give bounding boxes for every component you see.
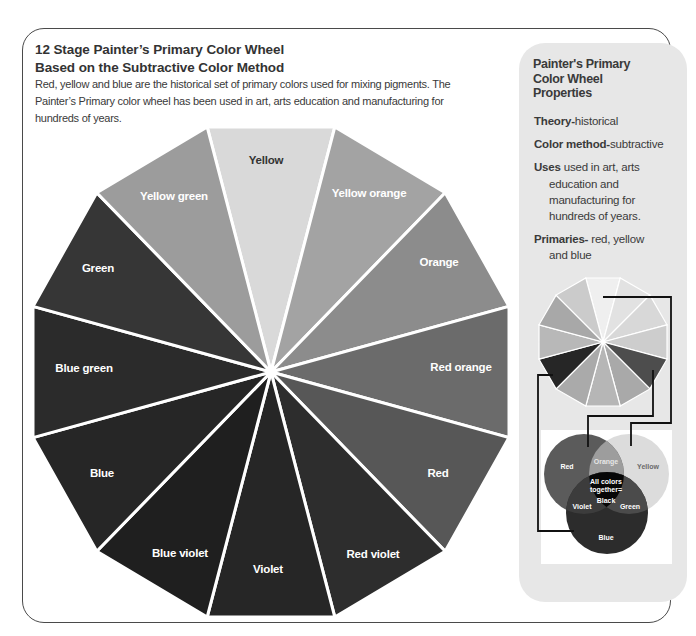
venn-label-orange: Orange xyxy=(594,458,619,466)
venn-label-center: together= xyxy=(590,486,622,494)
diagram-canvas: Yellow Yellow orange Orange Red orange R… xyxy=(0,0,696,636)
venn-label-center: Black xyxy=(597,497,616,504)
venn-label-yellow: Yellow xyxy=(637,463,659,470)
venn-label-green: Green xyxy=(620,503,640,510)
wheel-label: Blue violet xyxy=(152,547,208,559)
venn-label-center: All colors xyxy=(590,478,622,485)
wheel-label: Yellow green xyxy=(140,190,208,202)
venn-label-violet: Violet xyxy=(573,503,593,510)
wheel-label: Red xyxy=(427,467,448,479)
wheel-label: Blue green xyxy=(55,362,113,374)
wheel-label: Red violet xyxy=(347,548,400,560)
venn-label-blue: Blue xyxy=(598,534,613,541)
wheel-label: Blue xyxy=(90,467,114,479)
wheel-label: Orange xyxy=(419,256,458,268)
wheel-label: Yellow xyxy=(249,154,284,166)
wheel-label: Yellow orange xyxy=(332,187,407,199)
wheel-label: Green xyxy=(82,262,114,274)
wheel-label: Red orange xyxy=(430,361,491,373)
wheel-label: Violet xyxy=(253,563,283,575)
venn-label-red: Red xyxy=(560,463,573,470)
